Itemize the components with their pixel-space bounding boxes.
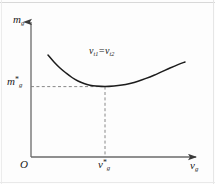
annotation-right-subscript: t2: [109, 50, 114, 57]
origin-label: O: [20, 159, 28, 170]
x-tick-label: v*g: [98, 159, 110, 172]
y-axis-label-symbol: m: [13, 13, 21, 25]
y-tick-symbol: m: [7, 75, 15, 87]
plot-area: [0, 0, 215, 184]
y-axis-label-subscript: g: [21, 19, 24, 26]
x-axis-label: vg: [190, 160, 198, 173]
y-axis-label: mg: [13, 14, 24, 27]
curve-annotation: vt1=vt2: [89, 46, 114, 57]
x-tick-subscript: g: [107, 164, 110, 171]
figure-container: mg vg O m*g v*g vt1=vt2: [0, 0, 215, 184]
x-axis-label-subscript: g: [195, 165, 198, 172]
curve-mg-vs-vg: [48, 55, 185, 87]
y-tick-label: m*g: [7, 76, 22, 89]
y-tick-subscript: g: [19, 81, 22, 88]
